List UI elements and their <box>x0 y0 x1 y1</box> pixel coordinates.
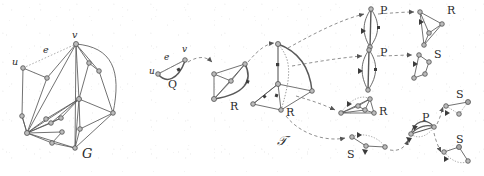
tree-T-links <box>188 12 443 152</box>
tree-node-S4 <box>442 145 471 164</box>
tree-node-label-R3: R <box>379 105 387 118</box>
tree-T-label: 𝒯 <box>277 133 287 149</box>
tree-link-R2-P1 <box>288 14 364 48</box>
graph-G-label: G <box>82 146 92 161</box>
graph-G-vertex-v-label: v <box>72 29 77 40</box>
tree-node-label-P1: P <box>380 4 387 17</box>
tree-node-label-S4: S <box>456 133 464 146</box>
tree-node-label-P3: P <box>422 111 429 124</box>
tree-node-R3 <box>339 97 377 116</box>
tree-node-label-R2: R <box>286 106 294 119</box>
graph-G <box>20 42 116 151</box>
tree-Q-vertex-u-label: u <box>149 66 155 76</box>
tree-link-R2-R3 <box>296 96 335 110</box>
tree-link-R2-S1 <box>286 116 345 139</box>
tree-node-label-R4: R <box>447 4 455 17</box>
tree-T <box>156 7 471 164</box>
tree-link-P3-S4 <box>434 133 441 152</box>
tree-node-P1 <box>361 7 380 50</box>
tree-node-Q <box>156 58 188 80</box>
tree-node-label-R1: R <box>230 100 238 113</box>
graph-G-vertices <box>20 42 116 151</box>
tree-link-R1-R2 <box>248 43 274 62</box>
tree-node-R2 <box>251 42 315 113</box>
tree-node-label-S1: S <box>347 148 355 161</box>
tree-node-P2 <box>358 48 377 93</box>
tree-node-R1 <box>212 62 250 102</box>
tree-node-S3 <box>444 100 471 117</box>
tree-node-P3 <box>406 121 436 143</box>
tree-node-label-S3: S <box>456 88 464 101</box>
tree-node-R4 <box>418 10 445 48</box>
tree-Q-edge-e-label: e <box>164 52 169 62</box>
tree-node-label-Q: Q <box>168 78 177 91</box>
graph-G-edge-e <box>23 44 76 68</box>
graph-G-vertex-u-label: u <box>12 56 18 67</box>
tree-node-S2 <box>412 53 432 81</box>
spqr-decomposition-figure <box>0 0 484 176</box>
graph-G-edge-e-label: e <box>43 44 49 55</box>
tree-node-label-S2: S <box>434 48 442 61</box>
tree-link-S1-P3 <box>390 140 408 150</box>
tree-link-P3-S3 <box>437 107 443 124</box>
tree-node-label-P2: P <box>380 46 387 59</box>
tree-node-S1 <box>350 132 388 155</box>
tree-Q-vertex-v-label: v <box>182 44 187 54</box>
graph-G-edges <box>22 44 116 148</box>
tree-link-Q-R1 <box>188 58 212 63</box>
